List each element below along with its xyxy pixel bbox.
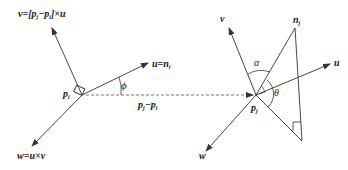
right-angle-marker-left	[74, 85, 85, 95]
w-label-left: w=u×v	[17, 150, 46, 161]
v-label-left: v=[pj−pi]×u	[18, 8, 66, 20]
u-label-right: u	[334, 57, 340, 68]
alpha-label: α	[254, 57, 260, 68]
pj-label: pj	[250, 102, 258, 114]
v-label-right: v	[220, 13, 225, 24]
u-vector-right	[256, 64, 330, 95]
u-label-left: u=ni	[152, 58, 171, 70]
u-vector-left	[82, 63, 148, 95]
w-vector-left	[32, 95, 82, 146]
right-frame	[206, 28, 330, 151]
v-vector-left	[52, 28, 82, 95]
diagram-canvas: v=[pj−pi]×u u=ni pi ϕ pj−pi w=u×v v nj u…	[0, 0, 348, 170]
normal-triangle	[256, 28, 302, 141]
right-angle-marker-right	[293, 122, 301, 131]
origin-square-right	[259, 86, 265, 94]
w-label-right: w	[199, 150, 206, 161]
w-vector-right	[206, 95, 256, 151]
theta-arc	[267, 80, 274, 107]
alpha-arc	[248, 70, 270, 74]
pi-label: pi	[62, 88, 70, 100]
left-frame	[32, 28, 148, 146]
baseline-label: pj−pi	[137, 99, 158, 111]
v-vector-right	[229, 28, 256, 95]
theta-label: θ	[274, 87, 279, 98]
nj-label: nj	[293, 14, 301, 26]
phi-label: ϕ	[121, 79, 127, 91]
